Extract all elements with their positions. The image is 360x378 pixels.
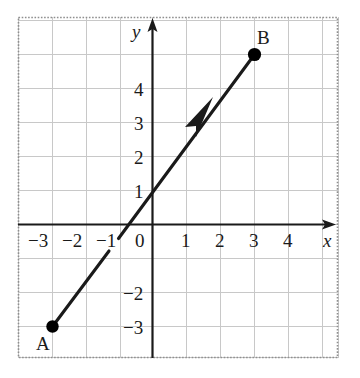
y-tick-label--3: −3 (123, 318, 143, 337)
y-tick-label--2: −2 (123, 284, 143, 303)
x-tick-label-2: 2 (215, 231, 225, 250)
x-tick-label--3: −3 (28, 231, 48, 250)
x-tick-label-4: 4 (283, 231, 293, 250)
x-tick-label--2: −2 (62, 231, 82, 250)
graph-canvas (0, 0, 360, 378)
y-axis-label: y (132, 22, 140, 41)
y-tick-label-1: 1 (134, 182, 144, 201)
x-tick-label-0: 0 (135, 231, 145, 250)
x-tick-label--1: −1 (96, 231, 116, 250)
point-b-marker (248, 48, 261, 61)
y-tick-label-4: 4 (134, 80, 144, 99)
coordinate-plane-figure: −3 −2 −1 0 1 2 3 4 4 3 2 1 −2 −3 y x A B (0, 0, 360, 378)
y-tick-label-3: 3 (134, 114, 144, 133)
x-tick-label-1: 1 (181, 231, 191, 250)
point-a-marker (46, 320, 58, 332)
y-tick-label-2: 2 (134, 148, 144, 167)
point-a-label: A (36, 334, 50, 353)
x-tick-label-3: 3 (249, 231, 259, 250)
x-axis-label: x (323, 231, 331, 250)
point-b-label: B (257, 28, 270, 47)
